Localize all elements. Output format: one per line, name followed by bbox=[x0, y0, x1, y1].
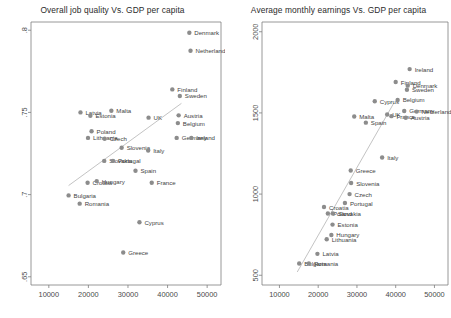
data-point-label: Cyprus bbox=[144, 219, 163, 226]
x-tick-label: 50000 bbox=[424, 290, 445, 299]
y-tick-label: 1000 bbox=[251, 186, 260, 202]
scatter-plot-job-quality: .65.7.75.81000020000300004000050000Denma… bbox=[0, 0, 225, 318]
chart-panel-job-quality: Overall job quality Vs. GDP per capita .… bbox=[0, 0, 225, 318]
x-tick-label: 30000 bbox=[347, 290, 368, 299]
x-tick-label: 20000 bbox=[308, 290, 329, 299]
data-point bbox=[77, 201, 81, 205]
data-point bbox=[109, 109, 113, 113]
data-point-label: Slovenia bbox=[356, 180, 380, 187]
chart-panel-monthly-earnings: Average monthly earnings Vs. GDP per cap… bbox=[226, 0, 451, 318]
data-point-label: Estonia bbox=[95, 112, 116, 119]
data-point bbox=[385, 112, 389, 116]
data-point-label: Romania bbox=[314, 260, 339, 267]
data-point bbox=[176, 113, 180, 117]
data-point bbox=[297, 261, 301, 265]
data-point bbox=[86, 136, 90, 140]
data-point bbox=[187, 30, 191, 34]
data-point-label: Sweden bbox=[185, 92, 207, 99]
data-point bbox=[88, 113, 92, 117]
data-point-label: Netherland bbox=[196, 47, 225, 54]
data-point-label: UK bbox=[154, 114, 162, 121]
y-tick-label: 2000 bbox=[251, 24, 260, 40]
data-point-label: Ireland bbox=[196, 134, 215, 141]
data-point bbox=[146, 115, 150, 119]
data-point bbox=[111, 159, 115, 163]
y-tick-label: .65 bbox=[20, 272, 29, 282]
data-point bbox=[326, 211, 330, 215]
x-tick-label: 10000 bbox=[269, 290, 290, 299]
y-tick-label: .7 bbox=[20, 192, 29, 198]
data-point bbox=[405, 87, 409, 91]
data-point-label: Belgium bbox=[403, 96, 425, 103]
data-point bbox=[315, 252, 319, 256]
x-tick-label: 40000 bbox=[385, 290, 406, 299]
data-point-label: Spain bbox=[371, 119, 387, 126]
data-point bbox=[347, 192, 351, 196]
data-point bbox=[178, 94, 182, 98]
data-point-label: Czech bbox=[355, 191, 372, 198]
data-point-label: France bbox=[157, 179, 177, 186]
data-point bbox=[364, 120, 368, 124]
data-point bbox=[78, 110, 82, 114]
data-point-label: Portugal bbox=[118, 157, 141, 164]
data-point bbox=[176, 121, 180, 125]
data-point-label: Italy bbox=[153, 147, 165, 154]
data-point bbox=[170, 87, 174, 91]
x-tick-label: 50000 bbox=[197, 290, 218, 299]
data-point bbox=[330, 222, 334, 226]
data-point-label: Italy bbox=[387, 154, 399, 161]
data-point bbox=[121, 250, 125, 254]
data-point bbox=[150, 181, 154, 185]
y-tick-label: .8 bbox=[20, 27, 29, 33]
data-point bbox=[352, 114, 356, 118]
data-point bbox=[188, 49, 192, 53]
scatter-plot-monthly-earnings: 5001000150020001000020000300004000050000… bbox=[226, 0, 451, 318]
data-point bbox=[146, 148, 150, 152]
data-point bbox=[85, 181, 89, 185]
data-point-label: Denmark bbox=[194, 29, 220, 36]
data-point bbox=[189, 136, 193, 140]
data-point bbox=[331, 211, 335, 215]
data-point bbox=[133, 169, 137, 173]
data-point bbox=[395, 98, 399, 102]
x-tick-label: 40000 bbox=[157, 290, 178, 299]
data-point-label: Estonia bbox=[338, 221, 359, 228]
figure-root: Overall job quality Vs. GDP per capita .… bbox=[0, 0, 451, 318]
data-point-label: Romania bbox=[85, 200, 110, 207]
data-point bbox=[137, 220, 141, 224]
data-point-label: Sweden bbox=[412, 86, 434, 93]
data-point bbox=[174, 136, 178, 140]
x-tick-label: 10000 bbox=[39, 290, 60, 299]
y-tick-label: 1500 bbox=[251, 105, 260, 121]
data-point bbox=[95, 179, 99, 183]
data-point bbox=[322, 205, 326, 209]
data-point bbox=[102, 137, 106, 141]
data-point-label: Belgium bbox=[183, 120, 205, 127]
data-point bbox=[89, 129, 93, 133]
data-point bbox=[404, 116, 408, 120]
data-point bbox=[407, 67, 411, 71]
data-point-label: Greece bbox=[356, 167, 377, 174]
x-tick-label: 30000 bbox=[118, 290, 139, 299]
data-point bbox=[349, 168, 353, 172]
y-tick-label: 500 bbox=[251, 269, 260, 281]
data-point bbox=[66, 193, 70, 197]
data-point bbox=[389, 114, 393, 118]
data-point bbox=[393, 80, 397, 84]
data-point-label: Spain bbox=[141, 167, 157, 174]
y-tick-label: .75 bbox=[20, 107, 29, 117]
data-point bbox=[380, 155, 384, 159]
data-point-label: Slovakia bbox=[338, 210, 362, 217]
data-point-label: Lithuania bbox=[332, 236, 357, 243]
data-point-label: Latvia bbox=[322, 250, 339, 257]
data-point bbox=[406, 83, 410, 87]
data-point-label: Bulgaria bbox=[74, 192, 97, 199]
data-point bbox=[325, 237, 329, 241]
data-point bbox=[373, 99, 377, 103]
data-point-label: Greece bbox=[128, 249, 149, 256]
data-point-label: Malta bbox=[116, 107, 132, 114]
data-point-label: Austria bbox=[411, 114, 431, 121]
data-point bbox=[307, 261, 311, 265]
data-point bbox=[349, 181, 353, 185]
data-point-label: Czech bbox=[110, 135, 127, 142]
